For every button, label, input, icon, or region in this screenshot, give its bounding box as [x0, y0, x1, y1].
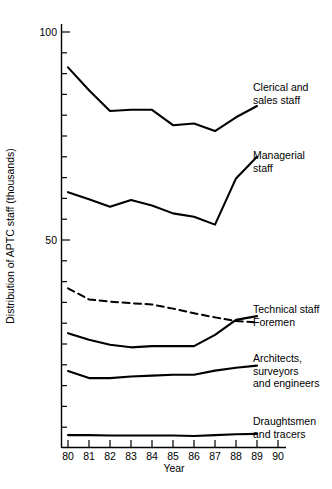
series-label-4: and engineers: [253, 377, 320, 389]
series-label-1: staff: [253, 162, 273, 174]
x-tick-label: 85: [167, 450, 179, 462]
y-tick-label: 100: [39, 26, 57, 38]
x-tick-label: 82: [104, 450, 116, 462]
series-label-4: Architects,: [253, 352, 302, 364]
x-tick-label: 86: [188, 450, 200, 462]
series-label-group: Clerical andsales staffManagerialstaffTe…: [253, 81, 320, 440]
chart-series-group: [68, 67, 257, 436]
x-tick-label: 88: [230, 450, 242, 462]
series-line-1: [68, 157, 257, 225]
x-tick-label: 87: [209, 450, 221, 462]
x-tick-label: 89: [251, 450, 263, 462]
series-label-5: Draughtsmen: [253, 415, 316, 427]
x-tick-label: 81: [83, 450, 95, 462]
y-axis-tick-labels: 10050: [39, 26, 57, 246]
line-chart: 10050 8081828384858687888990 Clerical an…: [0, 0, 332, 489]
x-tick-label: 84: [146, 450, 158, 462]
y-axis-ticks: [62, 32, 71, 427]
series-line-4: [68, 366, 257, 378]
x-axis-tick-labels: 8081828384858687888990: [62, 450, 284, 462]
series-label-1: Managerial: [253, 149, 305, 161]
x-tick-label: 83: [125, 450, 137, 462]
y-tick-label: 50: [45, 234, 57, 246]
series-label-0: sales staff: [253, 94, 300, 106]
series-line-5: [68, 434, 257, 436]
series-label-3: Technical staff: [253, 303, 319, 315]
x-tick-label: 80: [62, 450, 74, 462]
x-axis-ticks: [68, 440, 278, 448]
series-label-4: surveyors: [253, 365, 299, 377]
series-label-0: Clerical and: [253, 81, 309, 93]
series-label-2: Foremen: [253, 316, 295, 328]
series-line-0: [68, 67, 257, 131]
chart-svg: 10050 8081828384858687888990 Clerical an…: [0, 0, 332, 489]
y-axis-title: Distribution of APTC staff (thousands): [4, 148, 16, 323]
x-tick-label: 90: [272, 450, 284, 462]
series-label-5: and tracers: [253, 428, 306, 440]
x-axis-title: Year: [163, 462, 185, 474]
series-line-2: [68, 288, 257, 322]
